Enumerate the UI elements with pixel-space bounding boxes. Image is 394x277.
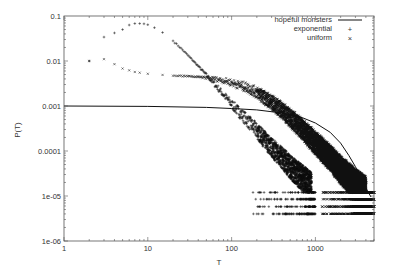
x-tick-label: 1 [62,244,66,253]
y-tick-label: 1e-05 [42,192,61,201]
y-tick-label: 1e-06 [42,237,61,246]
y-tick-label: 0.01 [46,57,61,66]
legend-label-hopeful-monsters: hopeful monsters [274,15,332,24]
y-tick-label: 0.0001 [38,147,61,156]
plot-data [64,22,375,215]
chart: 11010010000.10.010.0010.00011e-051e-06 T… [0,0,394,277]
legend-plus-icon: + [348,25,353,34]
x-tick-label: 10 [144,244,152,253]
x-tick-label: 1000 [307,244,324,253]
x-axis-label: T [217,258,222,267]
series-uniform [88,58,375,215]
legend: hopeful monsters exponential + uniform × [274,15,362,43]
legend-label-exponential: exponential [294,24,333,33]
y-tick-label: 0.001 [42,102,61,111]
legend-label-uniform: uniform [307,33,332,42]
legend-cross-icon: × [348,34,352,43]
y-axis-label: P(T) [13,122,22,138]
y-tick-label: 0.1 [51,12,61,21]
x-tick-label: 100 [225,244,238,253]
axis-ticks: 11010010000.10.010.0010.00011e-051e-06 [38,12,374,254]
